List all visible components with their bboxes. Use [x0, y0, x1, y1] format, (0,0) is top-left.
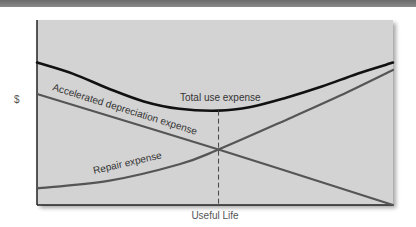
- plot-area: [37, 20, 393, 205]
- x-axis-label: Useful Life: [191, 210, 239, 221]
- series-label-total-use-expense: Total use expense: [180, 92, 261, 103]
- chart: $ Useful Life Total use expense Accelera…: [0, 0, 416, 227]
- y-axis-label: $: [14, 94, 20, 105]
